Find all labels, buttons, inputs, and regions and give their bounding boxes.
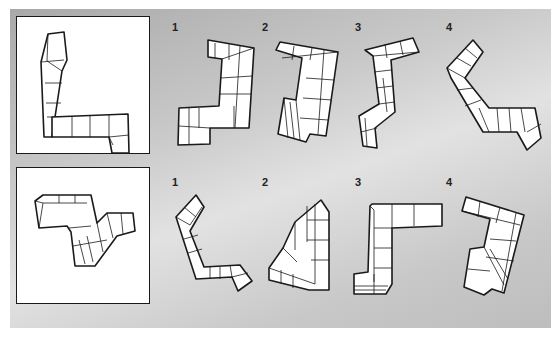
option-label-row-1-2: 2 (262, 21, 268, 33)
reference-figure-box-row-1 (16, 16, 150, 154)
cube-figure-option-row-1-2[interactable] (272, 38, 342, 150)
option-label-row-1-3: 3 (355, 21, 361, 33)
cube-figure-option-row-1-4[interactable] (443, 38, 543, 154)
option-label-row-2-3: 3 (355, 176, 361, 188)
cube-figure-reference-row-2 (17, 168, 151, 305)
option-label-row-1-4: 4 (446, 21, 452, 33)
cube-figure-option-row-2-3[interactable] (352, 202, 444, 294)
option-label-row-1-1: 1 (172, 21, 178, 33)
cube-figure-option-row-2-2[interactable] (267, 200, 337, 292)
option-label-row-2-2: 2 (262, 176, 268, 188)
cube-figure-reference-row-1 (17, 17, 151, 155)
option-label-row-2-1: 1 (172, 176, 178, 188)
cube-figure-option-row-1-3[interactable] (355, 36, 425, 152)
cube-figure-option-row-1-1[interactable] (174, 38, 258, 150)
cube-figure-option-row-2-4[interactable] (460, 195, 532, 295)
reference-figure-box-row-2 (16, 167, 150, 304)
cube-figure-option-row-2-1[interactable] (174, 195, 256, 295)
option-label-row-2-4: 4 (446, 176, 452, 188)
